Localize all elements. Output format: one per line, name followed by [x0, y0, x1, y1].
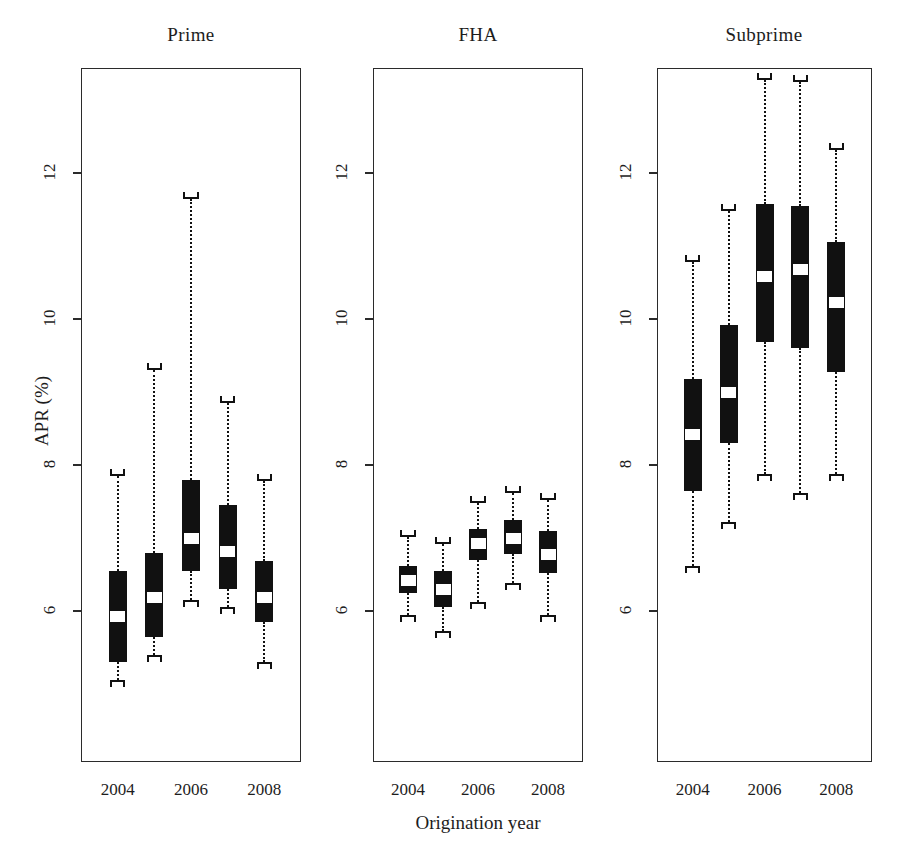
y-tick-label: 10	[616, 303, 636, 333]
median-prime-2004	[110, 611, 125, 622]
whisker-cap-upper	[435, 537, 450, 544]
whisker-cap-lower	[470, 602, 485, 609]
whisker-upper	[512, 493, 514, 520]
x-axis-label: Origination year	[378, 812, 578, 834]
whisker-cap-lower	[183, 600, 198, 607]
whisker-cap-lower	[257, 662, 272, 669]
median-prime-2008	[257, 592, 272, 603]
y-tick-label: 10	[332, 303, 352, 333]
x-tick-label: 2008	[508, 780, 588, 800]
y-tick-label: 12	[40, 157, 60, 187]
whisker-cap-lower	[400, 615, 415, 622]
whisker-cap-upper	[220, 396, 235, 403]
whisker-cap-upper	[721, 204, 736, 211]
box-prime-2006	[182, 480, 200, 571]
whisker-lower	[407, 593, 409, 615]
y-tick-mark	[73, 172, 81, 174]
whisker-upper	[153, 370, 155, 553]
x-tick-label: 2006	[438, 780, 518, 800]
box-subprime-2007	[791, 206, 809, 348]
y-tick-mark	[649, 610, 657, 612]
whisker-lower	[799, 348, 801, 493]
whisker-cap-upper	[183, 192, 198, 199]
y-tick-label: 8	[616, 449, 636, 479]
whisker-upper	[477, 503, 479, 529]
x-tick-label: 2006	[725, 780, 805, 800]
panel-frame-fha	[373, 68, 583, 762]
x-tick-label: 2008	[796, 780, 876, 800]
whisker-cap-lower	[435, 631, 450, 638]
y-tick-label: 6	[332, 595, 352, 625]
whisker-cap-upper	[470, 496, 485, 503]
whisker-lower	[442, 607, 444, 631]
whisker-cap-upper	[793, 75, 808, 82]
whisker-upper	[692, 262, 694, 379]
whisker-cap-upper	[110, 469, 125, 476]
y-axis-label: APR (%)	[31, 351, 53, 471]
median-subprime-2004	[685, 429, 700, 440]
whisker-cap-lower	[829, 474, 844, 481]
box-subprime-2005	[720, 325, 738, 443]
whisker-upper	[227, 403, 229, 505]
whisker-cap-lower	[220, 607, 235, 614]
whisker-cap-upper	[685, 255, 700, 262]
median-fha-2008	[541, 549, 556, 560]
median-fha-2004	[401, 575, 416, 586]
whisker-lower	[692, 491, 694, 566]
y-tick-mark	[73, 464, 81, 466]
whisker-upper	[407, 537, 409, 566]
y-tick-mark	[365, 610, 373, 612]
whisker-upper	[547, 500, 549, 531]
whisker-cap-upper	[505, 486, 520, 493]
boxplot-figure: Prime681012200420062008FHA68101220042006…	[0, 0, 897, 855]
whisker-cap-upper	[540, 493, 555, 500]
x-tick-label: 2004	[368, 780, 448, 800]
whisker-lower	[227, 589, 229, 607]
y-tick-mark	[649, 318, 657, 320]
whisker-cap-lower	[721, 522, 736, 529]
panel-title-subprime: Subprime	[664, 24, 864, 46]
whisker-cap-upper	[257, 474, 272, 481]
whisker-upper	[728, 211, 730, 325]
y-tick-mark	[365, 318, 373, 320]
y-tick-mark	[365, 172, 373, 174]
whisker-lower	[547, 573, 549, 615]
y-tick-label: 10	[40, 303, 60, 333]
median-prime-2006	[184, 533, 199, 544]
y-tick-label: 8	[332, 449, 352, 479]
whisker-cap-lower	[757, 474, 772, 481]
whisker-lower	[728, 443, 730, 522]
whisker-cap-lower	[147, 655, 162, 662]
y-tick-mark	[73, 318, 81, 320]
whisker-upper	[190, 199, 192, 480]
median-fha-2006	[471, 538, 486, 549]
whisker-cap-lower	[505, 583, 520, 590]
y-tick-mark	[73, 610, 81, 612]
median-subprime-2005	[721, 387, 736, 398]
y-tick-mark	[649, 172, 657, 174]
y-tick-mark	[365, 464, 373, 466]
y-tick-label: 6	[616, 595, 636, 625]
whisker-lower	[764, 342, 766, 473]
median-subprime-2007	[793, 264, 808, 275]
whisker-upper	[117, 476, 119, 571]
whisker-cap-lower	[110, 680, 125, 687]
whisker-lower	[153, 637, 155, 655]
whisker-upper	[835, 150, 837, 243]
y-tick-label: 12	[616, 157, 636, 187]
whisker-lower	[263, 622, 265, 662]
whisker-cap-lower	[685, 566, 700, 573]
whisker-lower	[512, 554, 514, 583]
median-prime-2005	[147, 592, 162, 603]
whisker-lower	[477, 560, 479, 602]
whisker-upper	[263, 481, 265, 561]
panel-title-prime: Prime	[91, 24, 291, 46]
whisker-cap-lower	[540, 615, 555, 622]
whisker-cap-upper	[829, 143, 844, 150]
median-fha-2005	[436, 584, 451, 595]
whisker-cap-upper	[147, 363, 162, 370]
y-tick-label: 12	[332, 157, 352, 187]
whisker-upper	[764, 80, 766, 204]
whisker-lower	[835, 372, 837, 474]
median-subprime-2006	[757, 271, 772, 282]
